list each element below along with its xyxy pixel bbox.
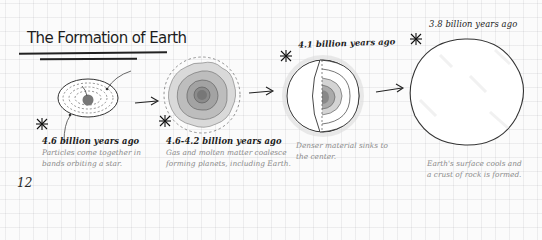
asterisk-icon bbox=[410, 33, 422, 45]
stage-2-description: Gas and molten matter coalesce forming p… bbox=[166, 147, 291, 169]
stage-1-era: 4.6 billion years ago bbox=[42, 136, 139, 146]
stage-1-description: Particles come together in bands orbitin… bbox=[42, 147, 141, 169]
page-number: 12 bbox=[17, 176, 32, 190]
stage-4-era: 3.8 billion years ago bbox=[429, 19, 517, 29]
stage-4-description: Earth's surface cools and a crust of roc… bbox=[427, 158, 522, 180]
stage-3-description: Denser material sinks to the center. bbox=[296, 140, 388, 162]
stage-2-era: 4.6-4.2 billion years ago bbox=[166, 136, 282, 146]
